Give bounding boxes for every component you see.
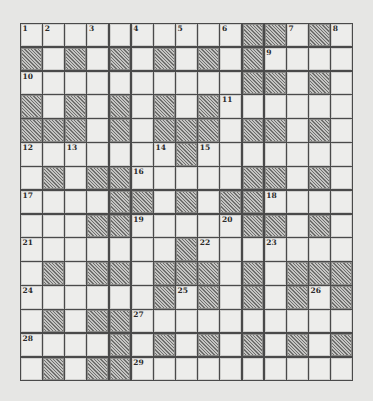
answer-cell[interactable]: 19 (132, 215, 153, 237)
answer-cell[interactable] (132, 262, 153, 284)
answer-cell[interactable] (243, 310, 264, 332)
answer-cell[interactable] (265, 262, 286, 284)
answer-cell[interactable] (309, 191, 330, 213)
answer-cell[interactable]: 14 (154, 143, 175, 165)
answer-cell[interactable]: 21 (21, 238, 42, 260)
answer-cell[interactable] (198, 167, 219, 189)
answer-cell[interactable] (331, 167, 352, 189)
answer-cell[interactable] (331, 143, 352, 165)
answer-cell[interactable] (65, 334, 86, 356)
answer-cell[interactable] (132, 238, 153, 260)
answer-cell[interactable] (154, 310, 175, 332)
answer-cell[interactable] (220, 238, 241, 260)
answer-cell[interactable] (110, 72, 131, 94)
answer-cell[interactable] (309, 310, 330, 332)
answer-cell[interactable]: 20 (220, 215, 241, 237)
answer-cell[interactable] (65, 167, 86, 189)
answer-cell[interactable] (87, 72, 108, 94)
answer-cell[interactable]: 15 (198, 143, 219, 165)
answer-cell[interactable]: 9 (265, 48, 286, 70)
answer-cell[interactable] (110, 238, 131, 260)
answer-cell[interactable] (176, 48, 197, 70)
answer-cell[interactable] (154, 72, 175, 94)
answer-cell[interactable] (65, 24, 86, 46)
answer-cell[interactable] (176, 72, 197, 94)
answer-cell[interactable] (154, 358, 175, 380)
answer-cell[interactable] (331, 358, 352, 380)
answer-cell[interactable] (132, 334, 153, 356)
answer-cell[interactable] (87, 238, 108, 260)
answer-cell[interactable] (21, 358, 42, 380)
answer-cell[interactable] (265, 286, 286, 308)
answer-cell[interactable] (287, 191, 308, 213)
answer-cell[interactable] (21, 310, 42, 332)
answer-cell[interactable] (43, 48, 64, 70)
answer-cell[interactable] (198, 191, 219, 213)
answer-cell[interactable]: 12 (21, 143, 42, 165)
answer-cell[interactable] (243, 95, 264, 117)
answer-cell[interactable] (65, 238, 86, 260)
answer-cell[interactable] (176, 215, 197, 237)
answer-cell[interactable] (243, 358, 264, 380)
answer-cell[interactable] (132, 143, 153, 165)
answer-cell[interactable] (331, 310, 352, 332)
answer-cell[interactable] (220, 48, 241, 70)
answer-cell[interactable] (87, 286, 108, 308)
answer-cell[interactable] (309, 143, 330, 165)
answer-cell[interactable]: 26 (309, 286, 330, 308)
answer-cell[interactable] (198, 215, 219, 237)
answer-cell[interactable] (287, 72, 308, 94)
answer-cell[interactable] (243, 238, 264, 260)
answer-cell[interactable]: 28 (21, 334, 42, 356)
answer-cell[interactable] (220, 358, 241, 380)
answer-cell[interactable]: 5 (176, 24, 197, 46)
answer-cell[interactable] (287, 143, 308, 165)
answer-cell[interactable] (265, 358, 286, 380)
answer-cell[interactable] (132, 48, 153, 70)
answer-cell[interactable] (154, 238, 175, 260)
answer-cell[interactable] (176, 310, 197, 332)
answer-cell[interactable] (220, 262, 241, 284)
answer-cell[interactable] (309, 95, 330, 117)
answer-cell[interactable] (220, 286, 241, 308)
answer-cell[interactable] (65, 286, 86, 308)
answer-cell[interactable] (154, 167, 175, 189)
answer-cell[interactable] (154, 24, 175, 46)
answer-cell[interactable] (43, 334, 64, 356)
answer-cell[interactable] (43, 95, 64, 117)
answer-cell[interactable] (132, 72, 153, 94)
answer-cell[interactable] (87, 143, 108, 165)
answer-cell[interactable] (65, 262, 86, 284)
answer-cell[interactable] (43, 143, 64, 165)
answer-cell[interactable] (176, 358, 197, 380)
answer-cell[interactable] (65, 310, 86, 332)
answer-cell[interactable] (287, 95, 308, 117)
answer-cell[interactable] (87, 191, 108, 213)
answer-cell[interactable]: 24 (21, 286, 42, 308)
answer-cell[interactable] (198, 358, 219, 380)
answer-cell[interactable] (65, 72, 86, 94)
answer-cell[interactable] (65, 358, 86, 380)
answer-cell[interactable] (265, 143, 286, 165)
answer-cell[interactable] (265, 334, 286, 356)
answer-cell[interactable]: 22 (198, 238, 219, 260)
answer-cell[interactable] (198, 24, 219, 46)
answer-cell[interactable] (265, 95, 286, 117)
answer-cell[interactable]: 7 (287, 24, 308, 46)
answer-cell[interactable] (243, 143, 264, 165)
answer-cell[interactable]: 13 (65, 143, 86, 165)
answer-cell[interactable] (132, 119, 153, 141)
answer-cell[interactable] (110, 286, 131, 308)
answer-cell[interactable] (132, 95, 153, 117)
answer-cell[interactable] (43, 72, 64, 94)
answer-cell[interactable] (309, 48, 330, 70)
answer-cell[interactable] (21, 167, 42, 189)
answer-cell[interactable] (110, 143, 131, 165)
answer-cell[interactable] (331, 72, 352, 94)
answer-cell[interactable] (220, 310, 241, 332)
answer-cell[interactable] (220, 334, 241, 356)
answer-cell[interactable] (176, 95, 197, 117)
answer-cell[interactable]: 18 (265, 191, 286, 213)
answer-cell[interactable] (198, 310, 219, 332)
answer-cell[interactable] (198, 72, 219, 94)
